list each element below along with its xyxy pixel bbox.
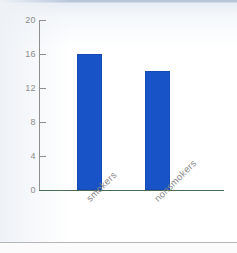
y-tick-16 — [39, 54, 46, 55]
y-tick-label-16: 16 — [6, 50, 36, 59]
y-tick-label-12: 12 — [6, 84, 36, 93]
y-tick-8 — [39, 122, 46, 123]
y-tick-label-0: 0 — [6, 186, 36, 195]
y-tick-label-4: 4 — [6, 152, 36, 161]
x-axis-baseline — [39, 190, 224, 191]
y-axis-line — [39, 20, 40, 190]
y-tick-20 — [39, 20, 46, 21]
y-tick-label-8: 8 — [6, 118, 36, 127]
y-tick-4 — [39, 156, 46, 157]
bar-smokers[interactable] — [77, 54, 102, 190]
page-bottom-margin — [0, 243, 237, 253]
y-tick-12 — [39, 88, 46, 89]
bar-nonsmokers[interactable] — [145, 71, 170, 190]
bar-chart: 0 4 8 12 16 20 smokers nonsmokers — [0, 0, 237, 253]
y-tick-label-20: 20 — [6, 16, 36, 25]
